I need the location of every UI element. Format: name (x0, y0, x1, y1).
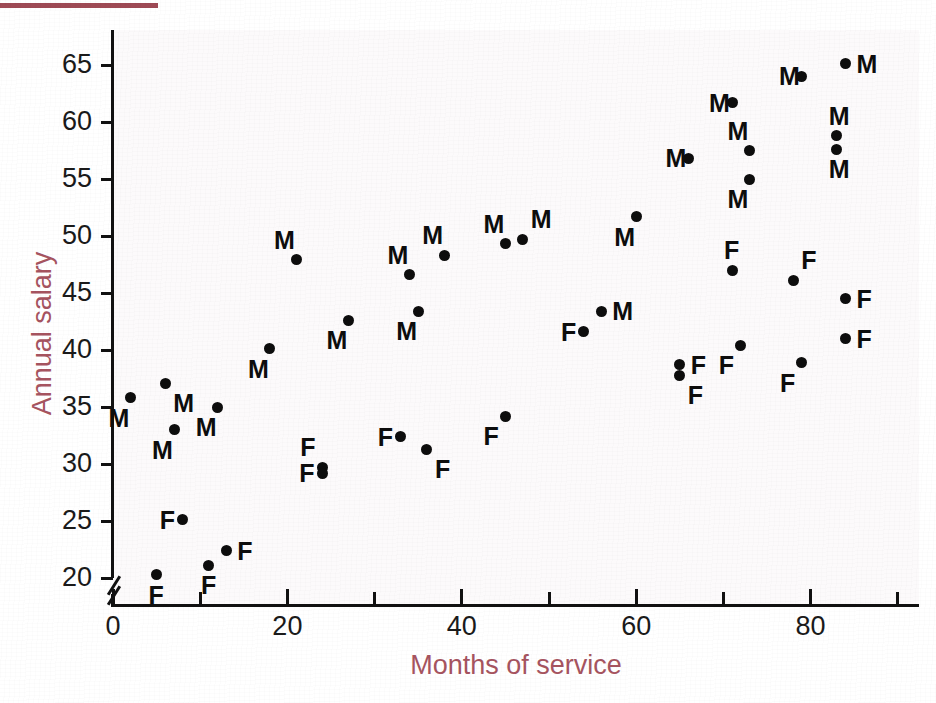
point-label-f: F (483, 424, 498, 449)
x-tick-20 (286, 589, 289, 605)
x-tick-label-0: 0 (78, 613, 148, 640)
point-label-f: F (724, 238, 739, 263)
x-tick-80 (809, 589, 812, 605)
point-label-m: M (829, 104, 850, 129)
x-tick-label-60: 60 (601, 613, 671, 640)
data-point-f (840, 333, 851, 344)
data-point-m (439, 250, 450, 261)
point-label-m: M (196, 415, 217, 440)
y-tick-45 (101, 292, 113, 295)
point-label-f: F (691, 353, 706, 378)
point-label-m: M (612, 299, 633, 324)
point-label-f: F (149, 583, 164, 608)
x-axis-line (113, 604, 919, 607)
point-label-m: M (531, 207, 552, 232)
point-label-m: M (108, 406, 129, 431)
point-label-m: M (483, 212, 504, 237)
scatter-plot-figure: 20253035404550556065 020406080 MMMMMMMMM… (0, 0, 936, 703)
x-tick-label-80: 80 (776, 613, 846, 640)
point-label-m: M (666, 146, 687, 171)
y-tick-65 (101, 64, 113, 67)
y-tick-25 (101, 520, 113, 523)
data-point-m (343, 315, 354, 326)
data-point-m (631, 211, 642, 222)
data-point-m (169, 424, 180, 435)
x-minor-tick-50 (548, 592, 551, 605)
point-label-f: F (299, 461, 314, 486)
x-minor-tick-30 (373, 592, 376, 605)
y-tick-label-25: 25 (36, 507, 92, 534)
point-label-f: F (801, 248, 816, 273)
point-label-m: M (248, 357, 269, 382)
y-tick-label-65: 65 (36, 51, 92, 78)
point-label-f: F (201, 573, 216, 598)
data-point-m (212, 402, 223, 413)
data-point-f (500, 411, 511, 422)
point-label-m: M (274, 228, 295, 253)
data-point-f (317, 468, 328, 479)
data-point-f (727, 265, 738, 276)
y-tick-label-55: 55 (36, 165, 92, 192)
y-tick-55 (101, 178, 113, 181)
point-label-m: M (728, 187, 749, 212)
point-label-m: M (173, 391, 194, 416)
point-label-m: M (856, 52, 877, 77)
point-label-f: F (237, 539, 252, 564)
data-point-m (744, 174, 755, 185)
x-tick-label-20: 20 (252, 613, 322, 640)
x-minor-tick-90 (896, 592, 899, 605)
y-axis-line (111, 30, 114, 578)
y-tick-60 (101, 121, 113, 124)
point-label-f: F (688, 383, 703, 408)
y-tick-40 (101, 349, 113, 352)
point-label-m: M (326, 328, 347, 353)
data-point-m (744, 145, 755, 156)
x-tick-label-40: 40 (427, 613, 497, 640)
y-tick-30 (101, 463, 113, 466)
plot-area (113, 30, 919, 606)
top-rule-decoration (0, 3, 158, 8)
point-label-f: F (300, 435, 315, 460)
point-label-f: F (561, 320, 576, 345)
y-tick-20 (101, 577, 113, 580)
data-point-f (788, 275, 799, 286)
point-label-f: F (780, 371, 795, 396)
point-label-m: M (709, 91, 730, 116)
point-label-m: M (396, 319, 417, 344)
x-axis-title: Months of service (113, 650, 919, 681)
point-label-m: M (152, 438, 173, 463)
point-label-f: F (856, 327, 871, 352)
point-label-f: F (719, 353, 734, 378)
x-minor-tick-70 (722, 592, 725, 605)
y-tick-50 (101, 235, 113, 238)
x-tick-40 (460, 589, 463, 605)
data-point-f (221, 545, 232, 556)
x-tick-60 (635, 589, 638, 605)
point-label-f: F (378, 425, 393, 450)
point-label-m: M (829, 157, 850, 182)
data-point-f (674, 370, 685, 381)
point-label-f: F (435, 457, 450, 482)
point-label-m: M (387, 243, 408, 268)
point-label-m: M (728, 119, 749, 144)
point-label-f: F (856, 287, 871, 312)
y-axis-title: Annual salary (27, 204, 58, 464)
x-tick-0 (112, 589, 115, 605)
point-label-m: M (614, 225, 635, 250)
point-label-f: F (160, 508, 175, 533)
point-label-m: M (422, 223, 443, 248)
point-label-m: M (779, 64, 800, 89)
data-point-m (413, 306, 424, 317)
y-tick-label-20: 20 (36, 564, 92, 591)
data-point-m (596, 306, 607, 317)
data-point-m (160, 378, 171, 389)
y-tick-label-60: 60 (36, 108, 92, 135)
